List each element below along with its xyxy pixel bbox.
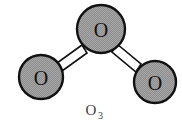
atom-top-label: O [94,19,108,41]
molecule-svg: O O O O 3 [0,0,182,125]
formula-caption: O 3 [86,102,103,121]
atom-left: O [19,55,63,99]
formula-element-symbol: O [86,102,97,118]
atom-right-label: O [148,72,162,94]
atom-group: O O O [19,5,176,103]
atom-left-label: O [34,67,48,89]
formula-subscript: 3 [98,110,103,121]
atom-top: O [77,5,125,53]
atom-right: O [134,61,176,103]
ozone-diagram-canvas: O O O O 3 [0,0,182,125]
